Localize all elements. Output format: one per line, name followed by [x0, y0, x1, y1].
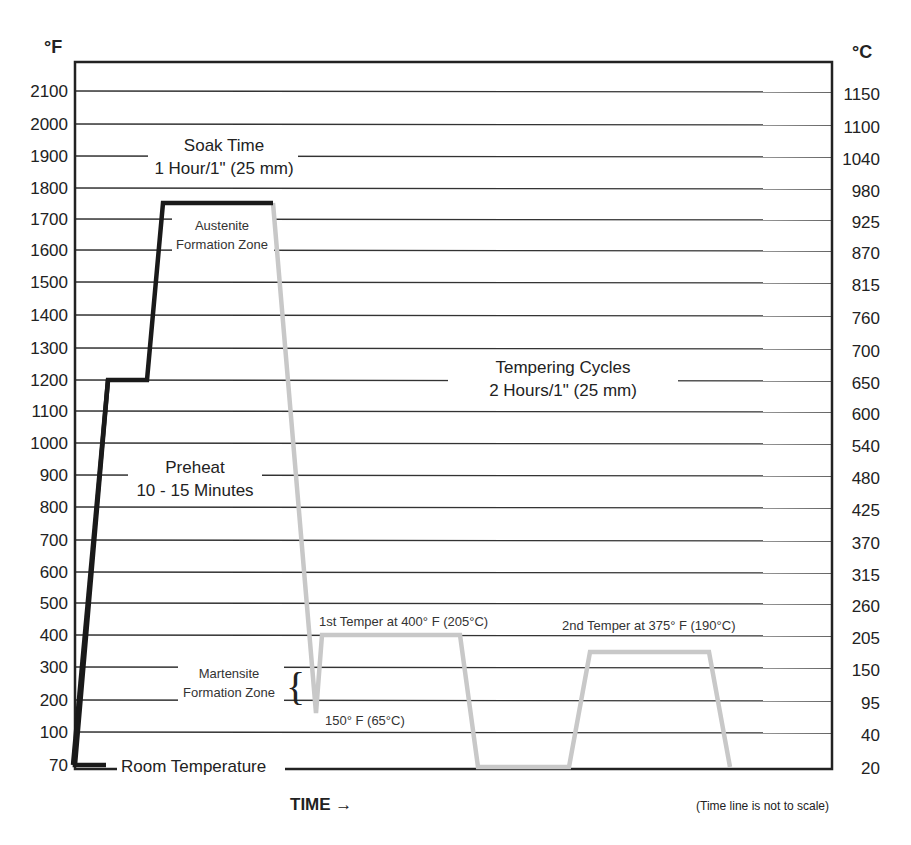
quench-low-label: 150° F (65°C) — [325, 713, 405, 728]
austenite-label-2: Formation Zone — [176, 237, 268, 252]
fahrenheit-tick-label: 1600 — [30, 241, 68, 260]
celsius-tick-label: 980 — [852, 182, 880, 201]
gridline — [75, 507, 832, 508]
celsius-tick-label: 480 — [852, 469, 880, 488]
austenite-label-1: Austenite — [195, 218, 249, 233]
gridline — [75, 540, 832, 541]
celsius-tick-label: 370 — [852, 534, 880, 553]
time-axis-label: TIME → — [290, 795, 352, 814]
fahrenheit-tick-label: 1300 — [30, 339, 68, 358]
fahrenheit-tick-label: 1500 — [30, 273, 68, 292]
heat-treatment-chart: °F °C 2100200019001800170016001500140013… — [0, 0, 911, 845]
fahrenheit-tick-label: 400 — [40, 626, 68, 645]
fahrenheit-tick-label: 2100 — [30, 82, 68, 101]
quench-temper-line — [273, 203, 730, 767]
celsius-tick-label: 315 — [852, 566, 880, 585]
fahrenheit-tick-label: 1000 — [30, 434, 68, 453]
gridline — [75, 188, 832, 189]
time-scale-note: (Time line is not to scale) — [696, 799, 829, 813]
martensite-label-2: Formation Zone — [183, 685, 275, 700]
first-temper-label: 1st Temper at 400° F (205°C) — [319, 614, 488, 629]
soak-time-title: Soak Time — [184, 136, 264, 155]
gridline — [75, 282, 832, 283]
celsius-tick-label: 815 — [852, 276, 880, 295]
fahrenheit-tick-label: 1200 — [30, 371, 68, 390]
celsius-tick-label: 870 — [852, 244, 880, 263]
celsius-tick-label: 260 — [852, 597, 880, 616]
celsius-tick-label: 1100 — [843, 118, 880, 137]
gridline — [75, 348, 832, 349]
room-temperature-label: Room Temperature — [121, 757, 266, 776]
fahrenheit-tick-label: 900 — [40, 466, 68, 485]
gridline — [75, 411, 832, 412]
gridline — [75, 315, 832, 316]
fahrenheit-tick-label: 800 — [40, 498, 68, 517]
tempering-cycles-title: Tempering Cycles — [495, 358, 630, 377]
celsius-tick-label: 925 — [852, 213, 880, 232]
fahrenheit-tick-label: 1100 — [31, 402, 68, 421]
preheat-subtitle: 10 - 15 Minutes — [136, 481, 253, 500]
celsius-tick-label: 540 — [852, 437, 880, 456]
celsius-tick-label: 150 — [852, 661, 880, 680]
celsius-tick-label: 425 — [852, 501, 880, 520]
celsius-tick-label: 20 — [861, 759, 880, 778]
fahrenheit-tick-label: 2000 — [30, 115, 68, 134]
celsius-tick-label: 700 — [852, 342, 880, 361]
fahrenheit-tick-label: 200 — [40, 691, 68, 710]
celsius-tick-label: 600 — [852, 405, 880, 424]
fahrenheit-axis: 2100200019001800170016001500140013001200… — [30, 82, 68, 775]
fahrenheit-unit-label: °F — [44, 37, 62, 57]
fahrenheit-tick-label: 300 — [40, 658, 68, 677]
fahrenheit-tick-label: 70 — [49, 756, 68, 775]
fahrenheit-tick-label: 700 — [40, 531, 68, 550]
martensite-brace-icon: { — [286, 664, 305, 709]
gridline — [75, 124, 832, 125]
celsius-tick-label: 1150 — [843, 85, 880, 104]
celsius-tick-label: 40 — [861, 726, 880, 745]
gridline — [75, 443, 832, 444]
tempering-cycles-subtitle: 2 Hours/1" (25 mm) — [489, 381, 637, 400]
celsius-tick-label: 1040 — [842, 150, 880, 169]
gridline — [75, 732, 832, 733]
martensite-label-1: Martensite — [199, 666, 260, 681]
gridline — [75, 572, 832, 573]
fahrenheit-tick-label: 1400 — [30, 306, 68, 325]
second-temper-label: 2nd Temper at 375° F (190°C) — [562, 618, 735, 633]
fahrenheit-tick-label: 1900 — [30, 147, 68, 166]
celsius-tick-label: 650 — [852, 374, 880, 393]
fahrenheit-tick-label: 100 — [40, 723, 68, 742]
preheat-title: Preheat — [165, 458, 225, 477]
gridline — [75, 603, 832, 604]
celsius-unit-label: °C — [852, 42, 872, 62]
fahrenheit-tick-label: 1700 — [30, 210, 68, 229]
soak-time-subtitle: 1 Hour/1" (25 mm) — [154, 159, 293, 178]
fahrenheit-tick-label: 500 — [40, 594, 68, 613]
fahrenheit-tick-label: 1800 — [30, 179, 68, 198]
gridline — [75, 91, 832, 92]
celsius-axis: 1150110010409809258708157607006506005404… — [842, 85, 880, 778]
celsius-tick-label: 760 — [852, 309, 880, 328]
fahrenheit-tick-label: 600 — [40, 563, 68, 582]
celsius-tick-label: 205 — [852, 629, 880, 648]
celsius-tick-label: 95 — [861, 694, 880, 713]
